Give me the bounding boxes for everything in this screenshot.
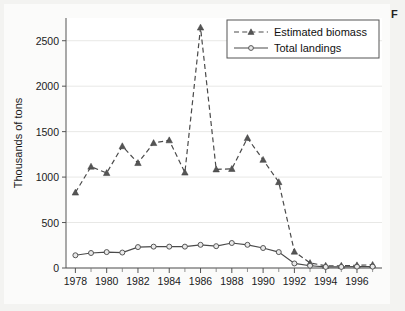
data-point-landings xyxy=(104,250,109,255)
legend-label-landings: Total landings xyxy=(274,42,342,54)
legend-marker-circle xyxy=(249,46,254,51)
line-chart: 05001000150020002500Thousands of tons197… xyxy=(0,0,405,311)
y-tick-label: 1000 xyxy=(36,171,60,183)
x-tick-label: 1978 xyxy=(64,275,88,287)
y-axis-title: Thousands of tons xyxy=(12,97,24,188)
y-tick-label: 0 xyxy=(53,262,59,274)
data-point-landings xyxy=(292,261,297,266)
figure-container: F 05001000150020002500Thousands of tons1… xyxy=(0,0,405,311)
data-point-landings xyxy=(308,263,313,268)
x-tick-label: 1990 xyxy=(251,275,275,287)
data-point-landings xyxy=(323,264,328,269)
x-tick-label: 1984 xyxy=(158,275,182,287)
data-point-landings xyxy=(151,244,156,249)
data-point-landings xyxy=(261,246,266,251)
data-point-landings xyxy=(167,244,172,249)
data-point-landings xyxy=(245,242,250,247)
y-tick-label: 2500 xyxy=(36,35,60,47)
y-tick-label: 2000 xyxy=(36,80,60,92)
legend-label-biomass: Estimated biomass xyxy=(274,26,367,38)
data-point-landings xyxy=(229,241,234,246)
data-point-landings xyxy=(120,250,125,255)
x-tick-label: 1982 xyxy=(126,275,150,287)
data-point-landings xyxy=(89,251,94,256)
data-point-landings xyxy=(198,242,203,247)
x-tick-label: 1994 xyxy=(314,275,338,287)
data-point-landings xyxy=(182,244,187,249)
data-point-landings xyxy=(354,264,359,269)
data-point-landings xyxy=(214,244,219,249)
x-tick-label: 1980 xyxy=(95,275,119,287)
y-tick-label: 500 xyxy=(41,217,59,229)
data-point-landings xyxy=(73,253,78,258)
x-tick-label: 1996 xyxy=(345,275,369,287)
x-tick-label: 1988 xyxy=(220,275,244,287)
data-point-landings xyxy=(135,245,140,250)
data-point-landings xyxy=(370,264,375,269)
x-tick-label: 1986 xyxy=(189,275,213,287)
y-tick-label: 1500 xyxy=(36,126,60,138)
data-point-landings xyxy=(339,264,344,269)
x-tick-label: 1992 xyxy=(283,275,307,287)
data-point-landings xyxy=(276,250,281,255)
